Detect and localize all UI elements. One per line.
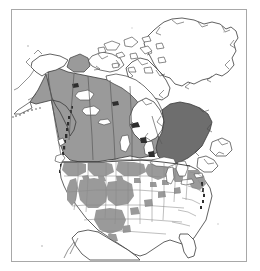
map-frame — [11, 9, 247, 262]
north-america-distribution-map — [12, 10, 246, 261]
patch-northern-rockies — [88, 162, 114, 176]
screenshot-root — [0, 0, 260, 271]
region-newfoundland — [210, 138, 232, 156]
region-banks-island — [67, 54, 90, 72]
region-maritimes — [197, 156, 218, 172]
region-quebec-labrador — [156, 102, 212, 164]
patch-scatter-12 — [122, 225, 131, 233]
region-alaska-peninsula — [14, 102, 32, 114]
lake-ontario — [194, 173, 203, 178]
patch-scatter-5 — [150, 182, 157, 187]
